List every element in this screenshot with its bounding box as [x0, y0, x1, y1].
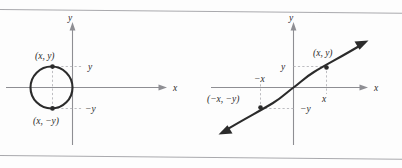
y-tick-label: y — [280, 62, 286, 72]
x-axis-label: x — [373, 83, 379, 93]
lower-point-marker — [258, 105, 263, 110]
neg-x-tick-label: −x — [254, 74, 265, 84]
x-tick-label: x — [321, 94, 327, 104]
lower-tick-label: −y — [85, 104, 96, 114]
lower-point-marker — [50, 106, 55, 111]
neg-y-tick-label: −y — [300, 104, 311, 114]
figure-circle-symmetry: y x (x, y) (x, −y) y −y — [0, 12, 201, 156]
upper-tick-label: y — [87, 62, 93, 72]
x-axis-label: x — [172, 83, 178, 93]
lower-point-label: (−x, −y) — [207, 94, 239, 105]
lower-point-label: (x, −y) — [33, 116, 59, 127]
upper-point-marker — [50, 64, 55, 69]
y-axis-arrowhead — [291, 22, 297, 31]
figure-origin-symmetry: y x (x, y) (−x, −y) y −y x −x — [201, 12, 402, 156]
x-axis-arrowhead — [159, 85, 168, 91]
y-axis-arrowhead — [70, 22, 76, 31]
upper-point-label: (x, y) — [313, 48, 333, 59]
upper-point-label: (x, y) — [35, 51, 55, 62]
x-axis-arrowhead — [360, 85, 369, 91]
y-axis-label: y — [288, 13, 294, 23]
y-axis-label: y — [67, 13, 73, 23]
upper-point-marker — [324, 65, 329, 70]
figure-page: y x (x, y) (x, −y) y −y y — [0, 0, 402, 168]
